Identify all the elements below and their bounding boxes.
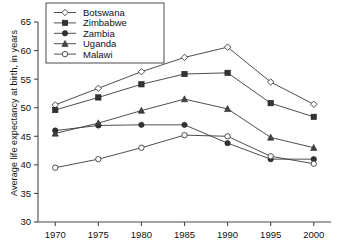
x-tick-label-1975: 1975 <box>88 229 109 240</box>
data-point-uganda-1995 <box>268 134 274 140</box>
legend-label-zambia: Zambia <box>83 28 115 39</box>
data-point-zimbabwe-2000 <box>311 114 316 119</box>
series-line-zambia <box>55 125 314 159</box>
data-point-malawi-1990 <box>225 134 230 139</box>
data-point-zimbabwe-1970 <box>53 107 58 112</box>
legend-marker-zimbabwe <box>62 20 67 25</box>
data-point-malawi-1970 <box>53 165 58 170</box>
data-point-zambia-1990 <box>225 140 230 145</box>
x-tick-label-1980: 1980 <box>131 229 152 240</box>
x-tick-label-1995: 1995 <box>260 229 281 240</box>
data-point-malawi-2000 <box>311 161 316 166</box>
y-tick-label-60: 60 <box>20 45 31 56</box>
y-tick-label-45: 45 <box>20 131 31 142</box>
series-line-zimbabwe <box>55 73 314 117</box>
y-tick-label-30: 30 <box>20 216 31 227</box>
legend-label-zimbabwe: Zimbabwe <box>83 17 127 28</box>
data-point-zimbabwe-1995 <box>268 100 273 105</box>
y-tick-label-40: 40 <box>20 159 31 170</box>
y-tick-label-65: 65 <box>20 16 31 27</box>
x-tick-label-1970: 1970 <box>45 229 66 240</box>
legend-label-uganda: Uganda <box>83 38 117 49</box>
data-point-malawi-1980 <box>139 145 144 150</box>
legend-marker-zambia <box>62 31 67 36</box>
y-tick-label-50: 50 <box>20 102 31 113</box>
data-point-zambia-1980 <box>139 122 144 127</box>
data-point-botswana-2000 <box>311 101 317 107</box>
legend-label-botswana: Botswana <box>83 7 125 18</box>
data-point-zimbabwe-1985 <box>182 71 187 76</box>
x-tick-label-2000: 2000 <box>303 229 324 240</box>
data-point-zimbabwe-1975 <box>96 95 101 100</box>
data-point-botswana-1975 <box>95 85 101 91</box>
legend-label-malawi: Malawi <box>83 49 113 60</box>
data-point-zimbabwe-1980 <box>139 82 144 87</box>
data-point-botswana-1985 <box>181 54 187 60</box>
y-tick-label-35: 35 <box>20 188 31 199</box>
y-tick-label-55: 55 <box>20 74 31 85</box>
data-point-malawi-1995 <box>268 154 273 159</box>
x-tick-label-1990: 1990 <box>217 229 238 240</box>
series-line-malawi <box>55 135 314 168</box>
chart-container: Average life expectancy at birth, in yea… <box>0 0 340 249</box>
x-tick-label-1985: 1985 <box>174 229 195 240</box>
line-chart-plot: 3035404550556065197019751980198519901995… <box>0 0 340 249</box>
legend-marker-malawi <box>62 51 67 56</box>
data-point-malawi-1985 <box>182 132 187 137</box>
data-point-botswana-1980 <box>138 69 144 75</box>
data-point-malawi-1975 <box>96 156 101 161</box>
data-point-zimbabwe-1990 <box>225 70 230 75</box>
data-point-uganda-1985 <box>181 96 187 102</box>
data-point-zambia-1985 <box>182 122 187 127</box>
